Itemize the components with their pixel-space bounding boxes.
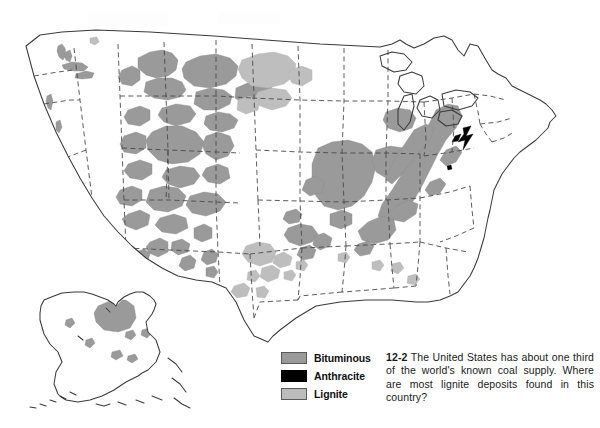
legend-label-lignite: Lignite (314, 388, 348, 400)
legend-item-anthracite: Anthracite (281, 368, 381, 383)
legend-item-bituminous: Bituminous (281, 350, 381, 365)
caption-text: The United States has about one third of… (386, 351, 594, 403)
coal-deposit-regions (34, 37, 473, 298)
lignite-swatch (281, 388, 307, 400)
figure-caption: 12-2 The United States has about one thi… (386, 351, 594, 405)
bituminous-swatch (281, 352, 307, 364)
legend-label-bituminous: Bituminous (314, 352, 371, 364)
anthracite-swatch (281, 370, 307, 382)
legend-item-lignite: Lignite (281, 386, 381, 401)
coal-map-figure: .coast{fill:none;stroke:#3a3a3a;stroke-w… (0, 0, 600, 428)
caption-number: 12-2 (386, 351, 407, 363)
alaska-inset (30, 292, 190, 408)
legend-label-anthracite: Anthracite (314, 370, 365, 382)
coal-type-legend: Bituminous Anthracite Lignite (281, 350, 381, 404)
